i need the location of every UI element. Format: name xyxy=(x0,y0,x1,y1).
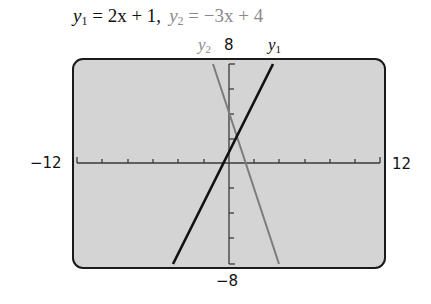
graph-screen xyxy=(0,0,431,304)
